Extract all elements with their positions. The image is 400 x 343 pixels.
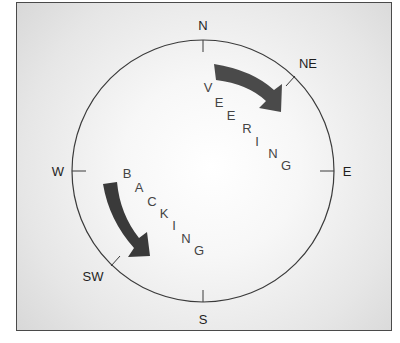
backing-letter: B: [123, 166, 132, 181]
backing-letter: K: [160, 206, 169, 221]
tick-ne: [286, 76, 295, 86]
backing-letter: I: [172, 218, 176, 233]
label-east: E: [343, 164, 352, 179]
tick-sw: [111, 256, 120, 266]
veering-letter: I: [255, 134, 259, 149]
veering-letter: V: [204, 80, 213, 95]
label-southwest: SW: [83, 269, 105, 284]
veering-arrow-icon: [214, 64, 282, 112]
backing-letter: A: [135, 180, 144, 195]
veering-letter: E: [215, 95, 224, 110]
veering-letter: E: [227, 108, 236, 123]
backing-letter: N: [181, 231, 190, 246]
label-south: S: [199, 312, 208, 327]
veering-letter: G: [281, 158, 291, 173]
label-west: W: [52, 164, 65, 179]
backing-letter: G: [194, 243, 204, 258]
compass-diagram: N NE E S SW W V E E R I N G B A C K I N …: [0, 0, 400, 343]
label-north: N: [198, 18, 207, 33]
label-northeast: NE: [299, 56, 317, 71]
veering-letter: R: [242, 121, 251, 136]
backing-letter: C: [147, 194, 156, 209]
veering-letter: N: [268, 146, 277, 161]
